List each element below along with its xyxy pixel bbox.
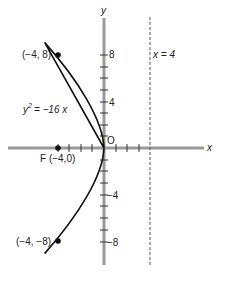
point-upper-label: (−4, 8)	[22, 49, 51, 60]
point-lower	[55, 238, 61, 244]
point-upper	[55, 52, 61, 58]
point-lower-label: (−4, −8)	[16, 236, 51, 247]
focus-label: F (−4,0)	[40, 153, 75, 164]
y-tick-label-neg8: −8	[107, 237, 119, 248]
y-axis-label: y	[100, 5, 107, 16]
parabola-diagram: y x O 8 4 −4 −8 x = 4 (−4, 8) (−4, −8) F…	[0, 0, 225, 282]
equation-label: y2= −16 x	[22, 102, 68, 115]
origin-label: O	[107, 135, 115, 146]
x-axis-label: x	[206, 142, 213, 153]
y-tick-label-neg4: −4	[107, 190, 119, 201]
y-tick-label-8: 8	[109, 49, 115, 60]
focus-point	[55, 145, 61, 151]
equation-exponent: 2	[27, 102, 32, 109]
y-tick-label-4: 4	[109, 97, 115, 108]
directrix-label: x = 4	[152, 49, 175, 60]
equation-rhs: = −16 x	[34, 104, 68, 115]
